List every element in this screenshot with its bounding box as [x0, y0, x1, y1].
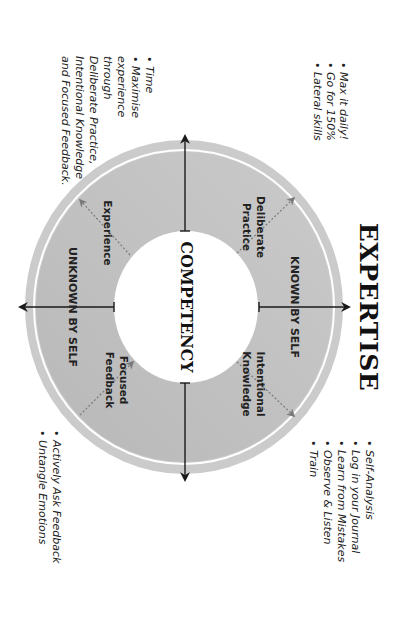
diagram-title: EXPERTISE: [354, 223, 383, 392]
svg-text:Feedback: Feedback: [104, 352, 116, 409]
svg-text:• Lateral skills: • Lateral skills: [311, 62, 324, 141]
svg-text:• Go for 150%: • Go for 150%: [324, 62, 337, 141]
expertise-diagram: EXPERTISE COMPETENCY KNOWN BY SELF UNKNO…: [0, 0, 408, 622]
svg-text:• Maximise: • Maximise: [129, 56, 142, 118]
svg-text:• Observe & Listen: • Observe & Listen: [321, 440, 334, 544]
svg-text:Intentional Knowledge: Intentional Knowledge: [73, 56, 86, 179]
svg-text:• Time: • Time: [143, 56, 156, 93]
svg-text:• Actively Ask Feedback: • Actively Ask Feedback: [50, 430, 63, 564]
svg-text:• Learn from Mistakes: • Learn from Mistakes: [335, 440, 348, 562]
svg-text:Deliberate: Deliberate: [255, 196, 267, 258]
svg-text:and Focused Feedback.: and Focused Feedback.: [59, 56, 72, 186]
svg-text:Experience: Experience: [102, 200, 114, 265]
svg-text:• Train: • Train: [307, 440, 320, 477]
quadrant-experience: Experience: [102, 200, 114, 265]
svg-text:Focused: Focused: [118, 356, 130, 405]
svg-text:Knowledge: Knowledge: [241, 351, 253, 416]
svg-text:Deliberate Practice,: Deliberate Practice,: [87, 56, 100, 165]
notes-focused: • Actively Ask Feedback • Untangle Emoti…: [36, 430, 63, 564]
unknown-by-self-label: UNKNOWN BY SELF: [66, 247, 79, 367]
known-by-self-label: KNOWN BY SELF: [288, 256, 301, 358]
svg-text:Intentional: Intentional: [255, 352, 267, 417]
svg-text:• Self-Analysis: • Self-Analysis: [363, 440, 376, 520]
svg-text:• Log in your Journal: • Log in your Journal: [349, 440, 362, 553]
notes-intentional: • Self-Analysis • Log in your Journal • …: [307, 440, 376, 562]
notes-deliberate: • Max it daily! • Go for 150% • Lateral …: [311, 62, 350, 141]
svg-text:• Untangle Emotions: • Untangle Emotions: [36, 430, 49, 545]
svg-text:through: through: [101, 56, 114, 99]
svg-text:Practice: Practice: [241, 203, 253, 251]
center-label: COMPETENCY: [177, 241, 196, 373]
svg-text:• Max it daily!: • Max it daily!: [337, 62, 350, 140]
svg-text:experience: experience: [115, 56, 128, 117]
